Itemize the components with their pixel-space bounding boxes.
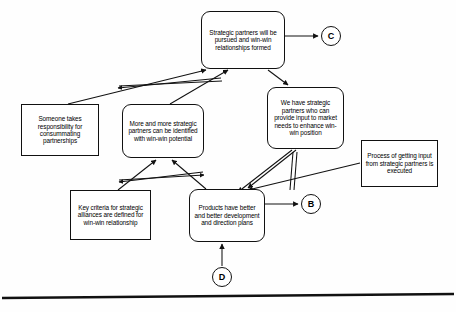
connector-circle-d: D	[212, 267, 232, 287]
node-label: Products have better and better developm…	[193, 204, 261, 226]
node-label: Strategic partners will be pursued and w…	[205, 29, 281, 51]
connector-circle-b: B	[301, 194, 321, 214]
node-label: Process of getting input from strategic …	[365, 152, 434, 174]
edge-crosslink-lower-bowtie-a	[119, 172, 203, 182]
connector-label: C	[328, 31, 335, 41]
edge-key-criteria-to-more-partners	[118, 160, 156, 190]
edge-crosslink-lower-bowtie-b	[119, 175, 204, 180]
edge-we-have-partners-vertical-stem-b	[294, 152, 297, 190]
edge-crosslink-upper-bowtie-a	[118, 78, 221, 88]
node-someone-takes-responsibility: Someone takes responsibility for consumm…	[21, 104, 99, 156]
connector-label: D	[219, 272, 226, 282]
node-label: Someone takes responsibility for consumm…	[25, 115, 95, 145]
connector-label: B	[308, 199, 315, 209]
node-label: More and more strategic partners can be …	[126, 120, 200, 142]
edge-products-to-more-partners	[172, 160, 206, 189]
edge-more-partners-to-strategic-partners	[170, 70, 228, 104]
diagram-canvas: Strategic partners will be pursued and w…	[0, 0, 456, 312]
edge-we-have-partners-to-products	[248, 150, 296, 188]
node-strategic-partners-pursued: Strategic partners will be pursued and w…	[201, 11, 285, 69]
edge-someone-responsibility-to-strategic-partners	[68, 70, 206, 104]
page-bottom-edge	[2, 294, 454, 298]
node-products-have-better-plans: Products have better and better developm…	[189, 189, 265, 242]
node-label: Key criteria for strategic alliances are…	[74, 204, 147, 226]
node-key-criteria-strategic-alliances: Key criteria for strategic alliances are…	[70, 190, 151, 240]
connector-circle-c: C	[321, 26, 341, 46]
node-process-of-getting-input: Process of getting input from strategic …	[361, 140, 438, 187]
edge-we-have-partners-vertical-stem-a	[290, 152, 293, 190]
edge-strategic-partners-to-we-have-partners	[268, 70, 288, 85]
node-more-and-more-strategic-partners: More and more strategic partners can be …	[122, 104, 204, 158]
node-we-have-strategic-partners: We have strategic partners who can provi…	[267, 87, 344, 149]
edge-we-have-partners-to-lower-left	[238, 150, 292, 192]
edge-process-input-to-products	[248, 163, 360, 190]
node-label: We have strategic partners who can provi…	[271, 99, 340, 136]
edge-crosslink-upper-bowtie-b	[119, 81, 222, 86]
